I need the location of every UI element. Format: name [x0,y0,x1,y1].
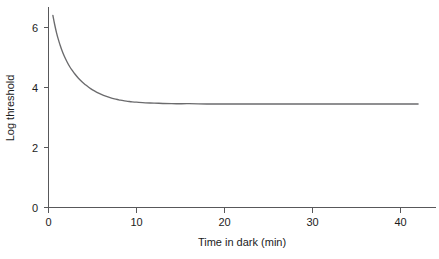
x-tick-label-10: 10 [130,216,142,228]
x-axis-tick-labels: 0 10 20 30 40 [45,216,406,228]
x-tick-label-40: 40 [394,216,406,228]
y-tick-label-6: 6 [32,22,38,34]
plot-area: 0 2 4 6 0 10 20 30 40 Time in dark (min)… [0,0,439,259]
dark-adaptation-chart: 0 2 4 6 0 10 20 30 40 Time in dark (min)… [0,0,439,259]
y-axis-title: Log threshold [4,75,16,142]
x-tick-label-20: 20 [218,216,230,228]
threshold-curve [53,16,418,105]
x-axis-ticks [49,208,401,213]
x-tick-label-30: 30 [306,216,318,228]
y-tick-label-2: 2 [32,142,38,154]
x-tick-label-0: 0 [45,216,51,228]
y-tick-label-4: 4 [32,82,38,94]
y-tick-label-0: 0 [32,202,38,214]
y-axis-ticks [44,28,49,208]
x-axis-title: Time in dark (min) [198,236,286,248]
y-axis-tick-labels: 0 2 4 6 [32,22,38,214]
